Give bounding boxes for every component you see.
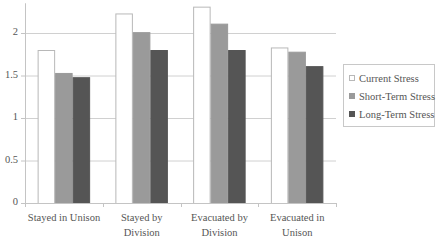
bar <box>56 73 73 203</box>
bar <box>229 51 246 204</box>
y-tick-label: 1 <box>0 111 18 122</box>
legend-item-long-term-stress: Long-Term Stress <box>349 107 434 121</box>
x-category-label: Evacuated inUnison <box>258 210 336 240</box>
legend-swatch-icon <box>349 75 355 81</box>
bar <box>116 14 133 204</box>
y-tick-label: 1.5 <box>0 69 18 80</box>
bar-series <box>38 7 323 203</box>
x-category-label: Stayed byDivision <box>103 210 181 240</box>
y-tick-label: 0 <box>0 196 18 207</box>
bar <box>73 78 90 204</box>
bar <box>194 7 211 203</box>
bar <box>133 33 150 204</box>
y-tick-label: 0.5 <box>0 154 18 165</box>
legend: Current Stress Short-Term Stress Long-Te… <box>343 64 435 127</box>
bar <box>151 51 168 204</box>
bar <box>289 52 306 203</box>
bar <box>306 67 323 204</box>
legend-swatch-icon <box>349 111 355 117</box>
y-tick-label: 2 <box>0 26 18 37</box>
legend-label: Long-Term Stress <box>359 109 434 120</box>
x-category-label: Evacuated byDivision <box>181 210 259 240</box>
legend-item-current-stress: Current Stress <box>349 71 419 85</box>
bar <box>211 24 228 203</box>
legend-item-short-term-stress: Short-Term Stress <box>349 89 435 103</box>
legend-label: Current Stress <box>359 73 419 84</box>
x-category-label: Stayed in Unison <box>25 210 103 225</box>
legend-swatch-icon <box>349 93 355 99</box>
legend-label: Short-Term Stress <box>359 91 435 102</box>
bar <box>38 51 55 204</box>
bar <box>271 48 288 204</box>
